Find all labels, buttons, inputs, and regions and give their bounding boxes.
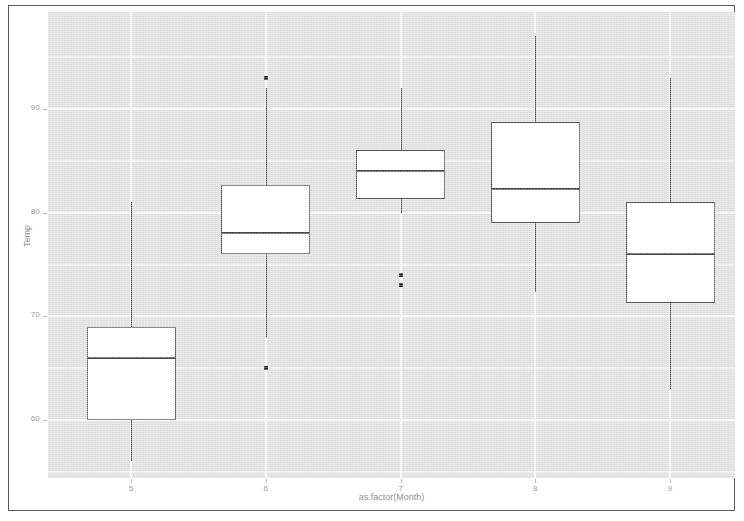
outlier-point	[399, 273, 403, 277]
gridline-h-major	[48, 315, 735, 317]
whisker-lower	[266, 254, 267, 337]
box	[221, 185, 310, 254]
y-tick-mark	[43, 109, 47, 110]
whisker-upper	[535, 36, 536, 122]
outlier-point	[264, 366, 268, 370]
y-tick-mark	[43, 213, 47, 214]
median-line	[626, 253, 715, 255]
whisker-upper	[266, 88, 267, 184]
whisker-lower	[401, 199, 402, 212]
x-axis-title: as.factor(Month)	[48, 492, 735, 502]
median-line	[356, 170, 445, 172]
y-tick-mark	[43, 316, 47, 317]
box	[491, 122, 580, 223]
whisker-upper	[131, 202, 132, 326]
outlier-point	[264, 76, 268, 80]
whisker-upper	[670, 78, 671, 202]
gridline-h-minor	[48, 56, 735, 58]
x-tick-mark	[401, 479, 402, 483]
box	[356, 150, 445, 199]
median-line	[221, 232, 310, 234]
whisker-upper	[401, 88, 402, 150]
y-tick-label: 70	[31, 310, 40, 319]
box	[87, 327, 176, 420]
x-tick-mark	[266, 479, 267, 483]
y-tick-label: 90	[31, 103, 40, 112]
chart-figure: Temp 60708090 56789 as.factor(Month)	[0, 0, 744, 521]
median-line	[87, 357, 176, 359]
y-tick-label: 80	[31, 207, 40, 216]
x-tick-mark	[131, 479, 132, 483]
gridline-h-major	[48, 108, 735, 110]
whisker-lower	[535, 223, 536, 292]
whisker-lower	[670, 303, 671, 389]
gridline-v-major	[400, 12, 402, 478]
median-line	[491, 188, 580, 190]
y-tick-label: 60	[31, 414, 40, 423]
plot-panel	[48, 12, 735, 478]
x-tick-mark	[670, 479, 671, 483]
y-tick-mark	[43, 420, 47, 421]
whisker-lower	[131, 420, 132, 461]
y-axis-title: Temp	[22, 225, 32, 247]
outlier-point	[399, 283, 403, 287]
x-tick-mark	[535, 479, 536, 483]
gridline-h-minor	[48, 471, 735, 473]
